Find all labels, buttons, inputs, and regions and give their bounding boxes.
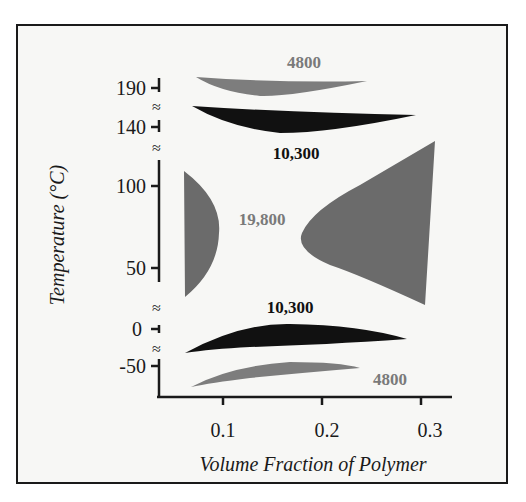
label-4800-upper: 4800 — [287, 53, 321, 72]
axis-break-icon: ≈ — [152, 340, 161, 357]
region-10300-upper — [192, 106, 416, 133]
x-axis — [157, 397, 452, 405]
label-19800: 19,800 — [239, 210, 286, 229]
region-19800-left — [184, 171, 219, 297]
y-axis-title: Temperature (°C) — [46, 164, 69, 305]
axis-break-icon: ≈ — [152, 98, 161, 115]
label-10300-lower: 10,300 — [267, 298, 314, 317]
phase-diagram: ≈ ≈ ≈ ≈ 190 140 100 50 0 -50 0.1 0.2 0.3… — [0, 0, 526, 502]
x-tick-0.2: 0.2 — [315, 419, 340, 441]
y-tick-neg50: -50 — [119, 355, 146, 377]
label-10300-upper: 10,300 — [273, 144, 320, 163]
region-4800-lower — [191, 362, 360, 387]
label-4800-lower: 4800 — [373, 370, 407, 389]
x-axis-title: Volume Fraction of Polymer — [199, 453, 426, 476]
y-tick-50: 50 — [126, 257, 146, 279]
x-tick-0.3: 0.3 — [418, 419, 443, 441]
region-4800-upper — [196, 77, 367, 96]
x-tick-0.1: 0.1 — [211, 419, 236, 441]
y-tick-190: 190 — [116, 77, 146, 99]
y-tick-140: 140 — [116, 116, 146, 138]
axis-break-icon: ≈ — [152, 139, 161, 156]
region-19800-right — [301, 141, 435, 305]
y-tick-100: 100 — [116, 175, 146, 197]
region-10300-lower — [185, 324, 407, 353]
axis-break-icon: ≈ — [152, 299, 161, 316]
y-tick-0: 0 — [132, 318, 142, 340]
